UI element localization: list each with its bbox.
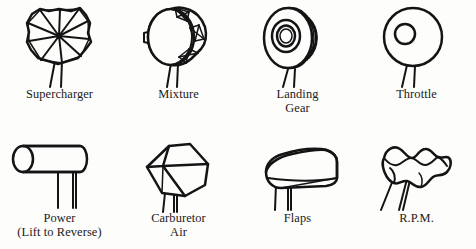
knob-cell-flaps: Flaps xyxy=(238,124,357,249)
knob-art-carburetor-air xyxy=(119,132,238,208)
knob-cell-carburetor-air: Carburetor Air xyxy=(119,124,238,249)
knob-art-flaps xyxy=(238,132,357,208)
knob-shapes-figure: Supercharger xyxy=(0,0,476,249)
knob-grid: Supercharger xyxy=(0,0,476,249)
knob-art-supercharger xyxy=(0,0,119,86)
knob-art-power xyxy=(0,132,119,208)
flaps-icon xyxy=(266,149,337,210)
landing-gear-icon xyxy=(264,8,317,87)
knob-label-landing-gear: Landing Gear xyxy=(238,87,357,115)
knob-cell-power: Power (Lift to Reverse) xyxy=(0,124,119,249)
knob-art-throttle xyxy=(357,0,476,86)
power-icon xyxy=(13,146,87,208)
knob-art-landing-gear xyxy=(238,0,357,86)
knob-art-rpm xyxy=(357,132,476,208)
knob-label-mixture: Mixture xyxy=(119,87,238,101)
knob-cell-supercharger: Supercharger xyxy=(0,0,119,124)
mixture-icon xyxy=(144,8,206,88)
knob-cell-throttle: Throttle xyxy=(357,0,476,124)
rpm-icon xyxy=(381,147,451,210)
knob-cell-rpm: R.P.M. xyxy=(357,124,476,249)
supercharger-icon xyxy=(27,8,91,87)
knob-label-supercharger: Supercharger xyxy=(0,87,119,101)
knob-cell-landing-gear: Landing Gear xyxy=(238,0,357,124)
knob-art-mixture xyxy=(119,0,238,86)
carburetor-air-icon xyxy=(147,144,208,212)
knob-cell-mixture: Mixture xyxy=(119,0,238,124)
knob-label-throttle: Throttle xyxy=(357,87,476,101)
throttle-icon xyxy=(384,8,442,87)
